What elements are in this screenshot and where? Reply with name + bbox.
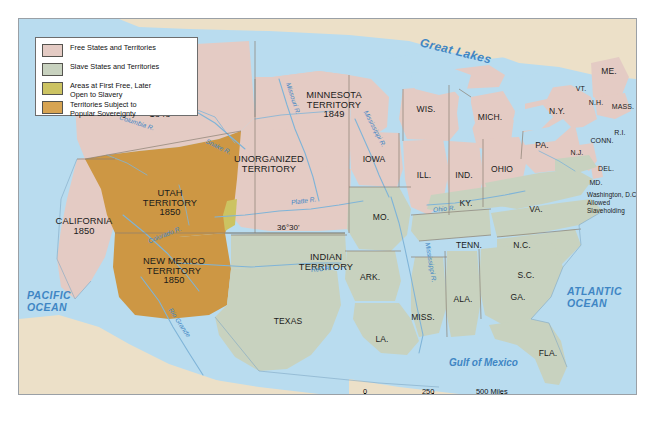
scale-label-miles-0: 0: [363, 387, 367, 395]
label-gulf-of-mexico: Gulf of Mexico: [449, 357, 518, 368]
legend-item-free: Free States and Territories: [42, 43, 192, 60]
label-ohio: OHIO: [485, 165, 519, 174]
legend-label-free: Free States and Territories: [70, 43, 156, 53]
label-massachusetts: MASS.: [607, 103, 637, 110]
label-washington-dc-note: Washington, D.C. Allowed Slaveholding: [587, 191, 637, 214]
label-rhode-island: R.I.: [611, 129, 629, 136]
label-virginia: VA.: [523, 205, 549, 214]
label-wisconsin: WIS.: [409, 105, 443, 114]
legend-swatch-slave: [42, 63, 63, 76]
label-missouri: MO.: [367, 213, 395, 222]
label-connecticut: CONN.: [587, 137, 617, 144]
scale-label-miles-250: 250: [422, 387, 434, 395]
scale-label-miles-500: 500 Miles: [476, 387, 508, 395]
label-new-hampshire: N.H.: [585, 99, 607, 106]
label-unorganized-territory: UNORGANIZED TERRITORY: [211, 155, 327, 174]
label-indiana: IND.: [449, 171, 479, 180]
label-texas: TEXAS: [265, 317, 311, 326]
label-maine: ME.: [597, 67, 621, 76]
map-canvas: .free{fill:#e4cbc4;} .slave{fill:#c8d2bf…: [18, 18, 637, 395]
label-michigan: MICH.: [471, 113, 509, 122]
label-new-mexico-territory: NEW MEXICO TERRITORY 1850: [119, 257, 229, 286]
label-north-carolina: N.C.: [509, 241, 535, 250]
legend-label-slave: Slave States and Territories: [70, 62, 159, 72]
label-arkansas: ARK.: [355, 273, 385, 282]
label-pennsylvania: PA.: [529, 141, 555, 150]
label-missouri-compromise-line: 36°30': [277, 223, 300, 232]
label-kentucky: KY.: [453, 199, 479, 208]
legend-label-later-open: Areas at First Free, Later Open to Slave…: [70, 81, 151, 99]
label-utah-territory: UTAH TERRITORY 1850: [125, 189, 215, 218]
label-mississippi: MISS.: [407, 313, 439, 322]
label-california: CALIFORNIA 1850: [39, 217, 129, 236]
map-legend: Free States and Territories Slave States…: [35, 37, 198, 116]
legend-item-later-open: Areas at First Free, Later Open to Slave…: [42, 81, 192, 98]
label-south-carolina: S.C.: [513, 271, 539, 280]
map-scale-bar: 0 250 500 Miles 0 250 500 Kilometers: [364, 387, 530, 395]
legend-item-slave: Slave States and Territories: [42, 62, 192, 79]
label-vermont: VT.: [571, 85, 591, 92]
label-new-jersey: N.J.: [567, 149, 587, 156]
legend-label-popular-sovereignty: Territories Subject to Popular Sovereign…: [70, 100, 137, 118]
legend-item-popular-sovereignty: Territories Subject to Popular Sovereign…: [42, 100, 192, 117]
label-pacific-ocean: PACIFIC OCEAN: [27, 289, 71, 313]
label-new-york: N.Y.: [543, 107, 571, 116]
legend-swatch-popular-sovereignty: [42, 101, 63, 114]
label-alabama: ALA.: [449, 295, 477, 304]
label-atlantic-ocean: ATLANTIC OCEAN: [567, 285, 622, 309]
label-maryland: MD.: [587, 179, 605, 186]
label-delaware: DEL.: [595, 165, 617, 172]
legend-swatch-later-open: [42, 82, 63, 95]
label-georgia: GA.: [505, 293, 531, 302]
label-iowa: IOWA: [355, 155, 393, 164]
legend-swatch-free: [42, 44, 63, 57]
label-louisiana: LA.: [371, 335, 393, 344]
label-tennessee: TENN.: [451, 241, 487, 250]
label-florida: FLA.: [535, 349, 561, 358]
label-illinois: ILL.: [409, 171, 439, 180]
